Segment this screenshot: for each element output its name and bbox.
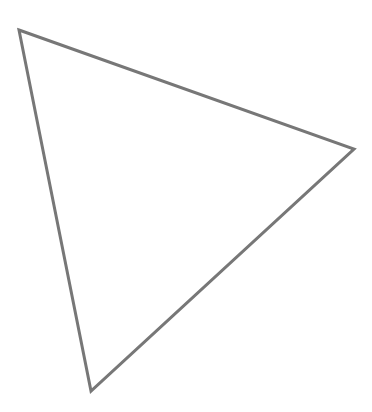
diagram-canvas: [0, 0, 372, 412]
triangle-shape: [19, 30, 354, 391]
